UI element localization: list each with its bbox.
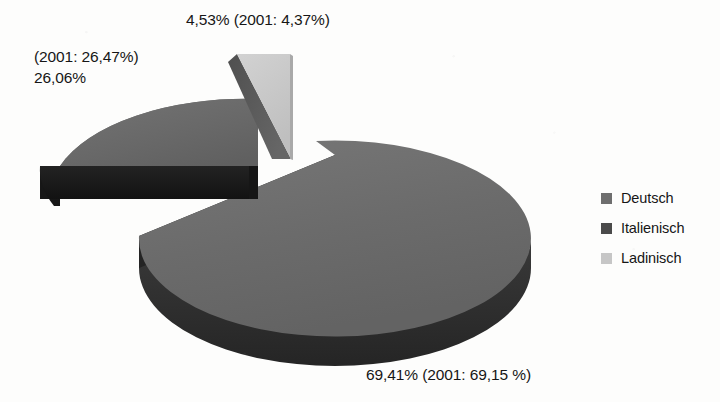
pie-chart-plot	[0, 0, 600, 402]
legend-swatch-ladinisch	[601, 253, 612, 264]
legend-item-italienisch[interactable]: Italienisch	[601, 213, 717, 243]
legend-label-italienisch: Italienisch	[621, 220, 684, 236]
pie-slice-italienisch-side	[40, 166, 249, 199]
pie-slice-ladinisch-edge	[290, 54, 293, 160]
legend-item-ladinisch[interactable]: Ladinisch	[601, 243, 717, 273]
pie-slice-italienisch[interactable]	[40, 99, 258, 206]
chart-legend: Deutsch Italienisch Ladinisch	[601, 183, 717, 273]
pie-chart-svg	[0, 0, 600, 402]
legend-label-ladinisch: Ladinisch	[621, 250, 681, 266]
legend-item-deutsch[interactable]: Deutsch	[601, 183, 717, 213]
legend-label-deutsch: Deutsch	[621, 190, 674, 206]
chart-page: 4,53% (2001: 4,37%) (2001: 26,47%) 26,06…	[0, 0, 720, 402]
legend-swatch-deutsch	[601, 193, 612, 204]
legend-swatch-italienisch	[601, 223, 612, 234]
pie-slice-italienisch-cut-face	[249, 166, 258, 199]
pie-slice-italienisch-top-arc	[60, 99, 258, 166]
